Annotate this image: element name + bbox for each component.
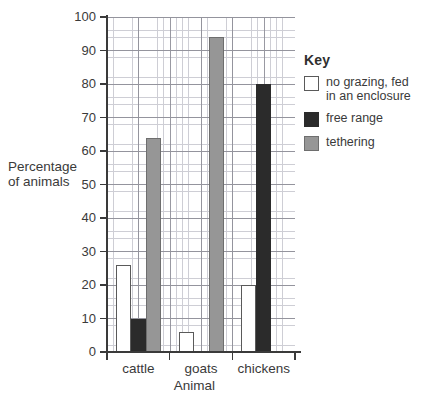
legend-entry-2: tethering [304,135,416,151]
x-axis-title-text: Animal [174,378,215,393]
x-tick [232,352,234,360]
bar-goats-series2 [209,37,224,352]
legend-entry-1: free range [304,111,416,127]
y-tick-label: 40 [62,211,96,224]
x-tick [294,352,296,360]
y-tick-label: 20 [62,278,96,291]
y-tick [100,83,107,85]
y-tick [100,284,107,286]
y-tick [100,117,107,119]
y-tick [100,251,107,253]
bar-chickens-series1 [256,84,271,352]
legend-entries: no grazing, fedin an enclosurefree range… [304,75,416,151]
y-tick [100,217,107,219]
y-tick-label: 80 [62,77,96,90]
bar-chart: 0102030405060708090100 cattlegoatschicke… [0,0,421,395]
y-tick-label: 60 [62,144,96,157]
x-tick [169,352,171,360]
bar-cattle-series2 [146,138,161,352]
y-tick-label: 0 [62,345,96,358]
y-axis-title-line2: of animals [8,174,92,189]
y-tick [100,318,107,320]
gray-square-icon [304,136,319,151]
y-tick [100,50,107,52]
y-tick-label: 30 [62,245,96,258]
y-axis-title: Percentage of animals [8,159,92,189]
black-square-icon [304,112,319,127]
white-square-icon [304,76,319,91]
bar-goats-series0 [179,332,194,352]
y-tick-label: 90 [62,44,96,57]
x-tick [106,352,108,360]
y-tick [100,16,107,18]
legend-label-0: no grazing, fedin an enclosure [326,75,411,103]
y-tick [100,184,107,186]
x-axis-line [100,351,301,353]
bar-cattle-series0 [116,265,131,352]
legend-title: Key [304,52,416,68]
plot-area [107,17,295,352]
y-tick-label: 10 [62,312,96,325]
legend-entry-0: no grazing, fedin an enclosure [304,75,416,103]
x-category-chickens: chickens [232,361,295,376]
y-tick-label: 70 [62,111,96,124]
bar-cattle-series1 [131,319,146,353]
x-axis-title: Animal [0,378,421,393]
y-tick-label: 100 [62,10,96,23]
y-axis-title-line1: Percentage [8,159,92,174]
legend: Key no grazing, fedin an enclosurefree r… [304,52,416,159]
x-category-goats: goats [170,361,233,376]
bar-chickens-series0 [241,285,256,352]
legend-label-1: free range [326,111,383,125]
legend-label-2: tethering [326,135,375,149]
x-category-cattle: cattle [107,361,170,376]
y-tick [100,150,107,152]
